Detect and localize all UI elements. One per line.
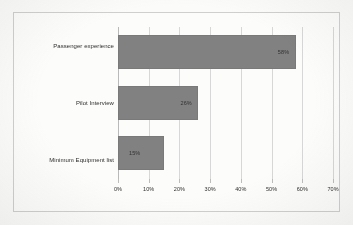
- bar-row: 58%: [118, 27, 333, 78]
- tick-mark-10: [149, 179, 150, 183]
- tick-label-30: 30%: [205, 186, 216, 192]
- bar-value-label: 58%: [278, 49, 289, 55]
- bar-value-label: 26%: [181, 100, 192, 106]
- tick-label-70: 70%: [327, 186, 338, 192]
- plot-area: 58% 26% 15%: [118, 27, 333, 179]
- category-axis: Passenger experience Pilot Interview Min…: [22, 27, 114, 179]
- tick-mark-70: [333, 179, 334, 183]
- bar-passenger-experience[interactable]: 58%: [118, 35, 296, 69]
- bar-value-label: 15%: [129, 150, 140, 156]
- category-label-passenger-experience: Passenger experience: [53, 43, 114, 49]
- tick-mark-0: [118, 179, 119, 183]
- gridline-70: [333, 27, 334, 179]
- tick-mark-60: [302, 179, 303, 183]
- bar-minimum-equipment-list[interactable]: 15%: [118, 136, 164, 170]
- category-label-minimum-equipment-list: Minimum Equipment list: [49, 157, 114, 163]
- tick-label-20: 20%: [174, 186, 185, 192]
- bar-row: 26%: [118, 78, 333, 129]
- category-label-pilot-interview: Pilot Interview: [76, 100, 114, 106]
- tick-mark-40: [241, 179, 242, 183]
- chart-frame: Passenger experience Pilot Interview Min…: [13, 12, 340, 212]
- scanned-page: Passenger experience Pilot Interview Min…: [0, 0, 353, 225]
- tick-mark-50: [272, 179, 273, 183]
- tick-label-50: 50%: [266, 186, 277, 192]
- bar-row: 15%: [118, 128, 333, 179]
- tick-label-60: 60%: [297, 186, 308, 192]
- bar-pilot-interview[interactable]: 26%: [118, 86, 198, 120]
- tick-mark-20: [179, 179, 180, 183]
- tick-label-10: 10%: [143, 186, 154, 192]
- value-axis: 0% 10% 20% 30% 40% 50% 60% 70%: [118, 179, 333, 201]
- tick-mark-30: [210, 179, 211, 183]
- tick-label-40: 40%: [235, 186, 246, 192]
- tick-label-0: 0%: [114, 186, 122, 192]
